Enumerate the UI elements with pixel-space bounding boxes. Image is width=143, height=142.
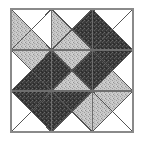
block-r2-c1 bbox=[52, 91, 93, 132]
block-r1-c0 bbox=[11, 50, 52, 91]
quilt-block-diagram bbox=[0, 0, 143, 142]
block-r1-c2 bbox=[92, 50, 133, 91]
quilt-figure bbox=[0, 0, 143, 142]
blocks-layer bbox=[11, 9, 133, 132]
block-r1-c1 bbox=[52, 50, 93, 91]
block-r2-c2 bbox=[92, 91, 133, 132]
block-r0-c0 bbox=[11, 9, 52, 50]
block-r2-c0 bbox=[11, 91, 52, 132]
block-r0-c1 bbox=[52, 9, 93, 50]
block-r0-c2 bbox=[92, 9, 133, 50]
